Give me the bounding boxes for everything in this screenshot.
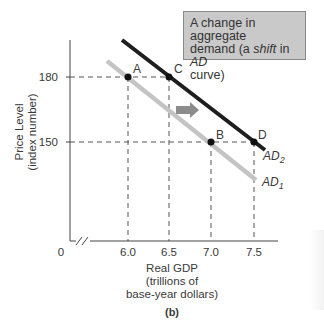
point-d: [251, 139, 258, 146]
point-c-label: C: [174, 62, 183, 76]
ad2-label: AD2: [262, 149, 285, 165]
point-b: [208, 139, 215, 146]
point-a-label: A: [133, 62, 141, 76]
origin-label: 0: [58, 246, 64, 258]
x-axis-label-line3: base-year dollars): [126, 288, 218, 300]
y-axis-label: Price Level (index number): [13, 93, 38, 171]
callout-line1: A change in aggregate: [190, 17, 299, 43]
point-b-label: B: [216, 128, 224, 142]
callout-box: A change in aggregate demand (a shift in…: [183, 11, 306, 60]
axis-break-icon: [76, 236, 90, 245]
y-tick-label-150: 150: [39, 136, 58, 148]
x-axis-label-line1: Real GDP: [146, 262, 198, 274]
y-axis-label-line1: Price Level: [13, 104, 25, 161]
point-c: [166, 74, 173, 81]
shift-arrow-icon: [176, 102, 199, 118]
callout-line2: demand (a shift in AD: [190, 43, 299, 69]
x-tick-label-7-0: 7.0: [203, 246, 219, 258]
point-d-label: D: [258, 128, 267, 142]
x-tick-label-6-0: 6.0: [120, 246, 136, 258]
x-tick-label-6-5: 6.5: [161, 246, 177, 258]
y-tick-label-180: 180: [39, 71, 58, 83]
y-axis-label-line2: (index number): [26, 93, 38, 171]
x-axis-label-line2: (trillions of: [146, 275, 199, 287]
point-a: [125, 74, 132, 81]
callout-line3: curve): [190, 69, 299, 82]
ad1-label: AD1: [261, 175, 284, 191]
x-tick-label-7-5: 7.5: [246, 246, 262, 258]
panel-label: (b): [165, 306, 179, 318]
